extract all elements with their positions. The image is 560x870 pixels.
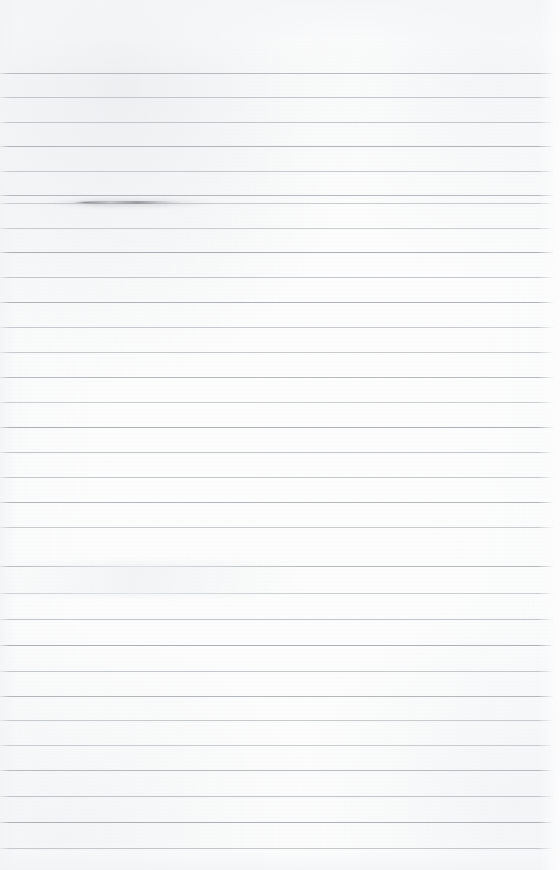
- rule-line: [0, 97, 556, 98]
- rule-line: [0, 352, 556, 353]
- rule-line: [0, 720, 556, 721]
- ink-smudge-halo: [46, 199, 216, 207]
- rule-line: [0, 745, 556, 746]
- rule-line: [0, 203, 556, 204]
- scanner-smear-artifact: [0, 562, 300, 596]
- rule-line: [0, 671, 556, 672]
- paper-grain-texture: [0, 0, 560, 870]
- rule-line: [0, 327, 556, 328]
- rule-line: [0, 195, 556, 196]
- scan-shadow-top: [0, 0, 560, 74]
- rule-line: [0, 171, 556, 172]
- rule-line: [0, 770, 556, 771]
- rule-line: [0, 377, 556, 378]
- rule-line: [0, 427, 556, 428]
- rule-line: [0, 645, 556, 646]
- rule-line: [0, 822, 556, 823]
- rule-line: [0, 619, 556, 620]
- rule-line: [0, 566, 556, 567]
- rule-line: [0, 73, 556, 74]
- rule-line: [0, 696, 556, 697]
- rule-line: [0, 277, 556, 278]
- rule-line: [0, 477, 556, 478]
- rule-line: [0, 146, 556, 147]
- scan-shadow-left: [0, 0, 16, 870]
- rule-line: [0, 228, 556, 229]
- rule-line: [0, 402, 556, 403]
- rule-line: [0, 502, 556, 503]
- rule-line: [0, 796, 556, 797]
- scanned-paper-page: [0, 0, 560, 870]
- ink-smudge-artifact: [72, 201, 184, 204]
- rule-line: [0, 452, 556, 453]
- scan-highlight-right: [540, 0, 560, 870]
- ruled-lines-layer: [0, 0, 560, 870]
- rule-line: [0, 122, 556, 123]
- rule-line: [0, 848, 556, 849]
- rule-line: [0, 527, 556, 528]
- rule-line: [0, 252, 556, 253]
- rule-line: [0, 302, 556, 303]
- rule-line: [0, 593, 556, 594]
- scan-shadow-bottom: [0, 844, 560, 870]
